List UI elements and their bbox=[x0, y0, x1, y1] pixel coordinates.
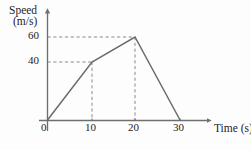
x-tick-label-10: 10 bbox=[85, 122, 96, 134]
x-tick-label-20: 20 bbox=[128, 122, 139, 134]
y-tick-label-60: 60 bbox=[28, 30, 39, 42]
x-tick-label-0: 0 bbox=[41, 122, 47, 134]
speed-data-line bbox=[48, 37, 181, 120]
y-axis-title-line2: (m/s) bbox=[13, 15, 37, 27]
x-tick-label-30: 30 bbox=[173, 122, 184, 134]
y-tick-label-40: 40 bbox=[28, 55, 39, 67]
speed-time-graph-figure: Speed (m/s) Time (s) 60 40 0 10 20 30 bbox=[0, 0, 251, 150]
x-axis-title: Time (s) bbox=[214, 122, 251, 134]
